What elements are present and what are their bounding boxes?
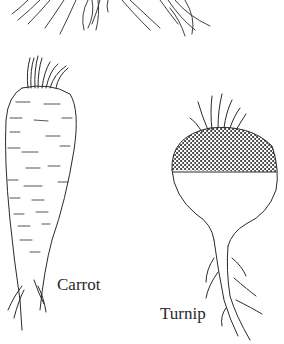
turnip-label: Turnip: [160, 304, 206, 324]
fibrous-roots-top: [12, 0, 210, 36]
root-vegetables-illustration: [0, 0, 284, 344]
carrot-label: Carrot: [57, 275, 100, 295]
